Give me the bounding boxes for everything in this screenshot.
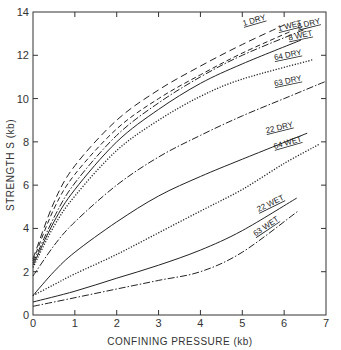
x-tick-label: 3	[156, 317, 162, 329]
y-tick-label: 2	[23, 266, 29, 278]
y-tick-label: 14	[17, 6, 29, 18]
series-label: 63 DRY	[273, 74, 303, 89]
y-tick-labels: 02468101214	[17, 6, 29, 321]
series-labels: 1 DRY1 WET8 DRY8 WET64 DRY63 DRY22 DRY64…	[242, 13, 322, 238]
series-label: 63 WET	[252, 214, 281, 238]
y-tick-label: 10	[17, 93, 29, 105]
series-1-dry	[33, 25, 284, 259]
y-tick-label: 12	[17, 49, 29, 61]
series-64-dry	[33, 60, 313, 268]
x-tick-label: 1	[72, 317, 78, 329]
x-tick-label: 0	[30, 317, 36, 329]
y-axis-title: STRENGTH S (kb)	[5, 119, 16, 211]
series-1-wet	[33, 32, 290, 261]
series-lines	[33, 25, 326, 306]
series-label: 22 DRY	[265, 120, 295, 136]
y-tick-label: 8	[23, 136, 29, 148]
strength-vs-pressure-chart: 01234567 02468101214 1 DRY1 WET8 DRY8 WE…	[0, 0, 341, 350]
series-label: 1 DRY	[242, 13, 268, 28]
series-label: 64 WET	[273, 134, 303, 151]
x-axis-title: CONFINING PRESSURE (kb)	[107, 336, 252, 347]
x-tick-label: 7	[323, 317, 329, 329]
x-tick-label: 6	[281, 317, 287, 329]
y-tick-label: 6	[23, 179, 29, 191]
x-tick-label: 2	[114, 317, 120, 329]
series-22-dry	[33, 133, 307, 295]
x-tick-label: 5	[239, 317, 245, 329]
y-tick-label: 0	[23, 309, 29, 321]
x-tick-labels: 01234567	[30, 317, 329, 329]
x-tick-label: 4	[197, 317, 203, 329]
series-63-dry	[33, 81, 326, 276]
y-tick-label: 4	[23, 222, 29, 234]
series-label: 22 WET	[256, 193, 286, 214]
series-22-wet	[33, 198, 297, 302]
